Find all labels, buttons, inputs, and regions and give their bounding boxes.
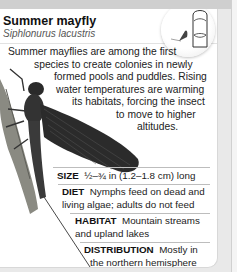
description-line: formed pools and puddles. Rising [0,71,210,84]
fact-label: HABITAT [75,215,117,226]
fact-diet: DIET Nymphs feed on dead and living alga… [62,186,205,211]
description-line: altitudes. [0,121,210,134]
description-line: water temperatures are warming [0,84,210,97]
description-line: species to create colonies in newly [0,59,210,72]
description-line: to move to higher [0,109,210,122]
fact-value: and upland lakes [75,228,200,241]
species-description: Summer mayflies are among the first spec… [0,46,210,134]
fact-distribution: DISTRIBUTION Mostly in the northern hemi… [84,244,198,268]
adjacent-page-edge [231,0,237,272]
fact-habitat: HABITAT Mountain streams and upland lake… [75,215,200,240]
top-bar [0,0,237,9]
description-line: Summer mayflies are among the first [0,46,210,59]
fact-label: DISTRIBUTION [84,244,154,255]
species-card: Summer mayfly Siphlonurus lacustris Su [0,9,218,268]
fact-size: SIZE ½–¾ in (1.2–1.8 cm) long [57,170,195,183]
fact-value: Mostly in [159,244,198,255]
fact-label: DIET [62,186,84,197]
fact-value: ½–¾ in (1.2–1.8 cm) long [84,170,195,181]
fact-label: SIZE [57,170,79,181]
description-line: its habitats, forcing the insect [0,96,210,109]
fact-value: Nymphs feed on dead and [90,186,205,197]
fact-value: living algae; adults do not feed [62,199,205,212]
fact-value: the northern hemisphere [84,257,198,269]
fact-value: Mountain streams [122,215,200,226]
